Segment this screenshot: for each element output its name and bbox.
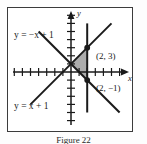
x-axis-label: x (128, 74, 132, 83)
figure-container: y = −x + 1 y = x + 1 (2, 3) (2, −1) y x … (0, 0, 147, 144)
point-marker-2-3 (84, 45, 90, 51)
equation-label-negative-slope: y = −x + 1 (14, 31, 54, 41)
equation-label-positive-slope: y = x + 1 (14, 102, 48, 112)
point-label-2-neg1: (2, −1) (96, 84, 121, 93)
point-marker-2-neg1 (84, 77, 90, 83)
coordinate-plane (7, 7, 133, 132)
point-label-2-3: (2, 3) (96, 52, 116, 61)
figure-caption: Figure 22 (0, 135, 147, 144)
y-axis-label: y (77, 9, 81, 18)
